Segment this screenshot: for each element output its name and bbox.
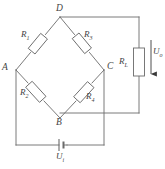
supply-voltage-label: Ui <box>56 152 64 163</box>
wire-r2-b <box>44 101 60 118</box>
resistor-label-r2: R2 <box>20 88 29 99</box>
circuit-schematic-svg <box>0 0 165 169</box>
node-label-d: D <box>56 4 63 14</box>
output-voltage-label: Uo <box>153 47 163 58</box>
supply-voltage-label-sub: i <box>63 157 65 163</box>
resistor-label-rl: RL <box>119 57 128 68</box>
node-label-b: B <box>56 118 62 128</box>
resistor-label-r4: R4 <box>86 92 95 103</box>
wire-d-r3 <box>60 17 75 35</box>
wire-a-r1 <box>16 53 31 71</box>
resistor-label-r1: R1 <box>21 30 30 41</box>
resistor-label-r3: R3 <box>84 30 93 41</box>
wire-r4-c <box>92 70 104 83</box>
resistor-label-r2-sub: 2 <box>26 93 29 99</box>
resistor-body-r1 <box>29 33 48 53</box>
resistor-label-rl-sub: L <box>125 62 128 68</box>
wire-b-r4 <box>60 101 76 118</box>
circuit-figure: A B C D R1 R2 R3 R4 RL Uo Ui <box>0 0 165 169</box>
wire-r3-c <box>90 53 105 71</box>
resistor-body-rl <box>134 48 145 76</box>
resistor-body-r2 <box>26 82 46 103</box>
output-voltage-label-sub: o <box>160 52 163 58</box>
wire-r1-d <box>46 17 61 35</box>
node-label-a: A <box>2 63 8 73</box>
resistor-label-r1-sub: 1 <box>27 35 30 41</box>
node-label-c: C <box>107 62 113 72</box>
wire-a-r2 <box>16 70 28 83</box>
resistor-label-r4-sub: 4 <box>92 97 95 103</box>
resistor-label-r3-sub: 3 <box>90 35 93 41</box>
